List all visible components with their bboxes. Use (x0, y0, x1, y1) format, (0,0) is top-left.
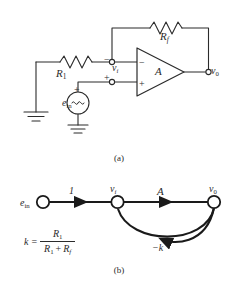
node-vi (111, 196, 123, 208)
formula-lhs: k (24, 236, 28, 247)
formula-k: k = R1 R1+Rf (24, 228, 75, 254)
caption-a: (a) (99, 153, 139, 163)
sign-plus-source: + (74, 85, 80, 95)
formula-denominator: R1+Rf (40, 242, 75, 255)
caption-b: (b) (99, 265, 139, 275)
label-node-v0-graph: v0 (209, 184, 217, 195)
formula-fraction: R1 R1+Rf (40, 228, 75, 254)
node-v0 (208, 196, 220, 208)
label-resistor-r1: R1 (56, 68, 66, 80)
label-source-ein: ein (62, 98, 72, 109)
label-branch-gain-minus-k: −k (152, 243, 163, 253)
figure-container: R1 Rf vi v0 A ein − + − + + (a) (0, 0, 238, 289)
label-node-ein-graph: ein (20, 198, 30, 209)
resistor-r1-symbol (60, 56, 92, 68)
formula-numerator: R1 (49, 228, 67, 241)
formula-equals: = (31, 236, 37, 247)
label-amp-gain: A (155, 66, 162, 77)
sign-minus-terminal: − (104, 55, 110, 65)
label-resistor-rf: Rf (160, 31, 169, 43)
label-branch-gain-A: A (157, 186, 164, 197)
label-node-vi: vi (112, 63, 118, 74)
label-branch-gain-1: 1 (69, 186, 74, 196)
branch-v0-to-vi-feedback (118, 208, 214, 237)
terminal-noninverting (109, 79, 114, 84)
wire-noninverting-to-source (78, 82, 109, 92)
ground-symbol-left (24, 112, 48, 121)
label-node-vi-graph: vi (110, 184, 116, 195)
wire-feedback-right (182, 28, 209, 69)
sign-minus-amp-input: − (139, 58, 145, 68)
ground-symbol-source (68, 125, 88, 133)
circuit-schematic (0, 0, 238, 150)
sign-plus-terminal: + (104, 73, 110, 83)
label-node-v0-circuit: v0 (211, 66, 219, 77)
sign-plus-amp-input: + (139, 79, 145, 89)
node-ein (37, 196, 49, 208)
